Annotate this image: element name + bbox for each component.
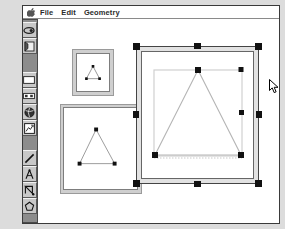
line-segment-icon[interactable] <box>23 150 37 166</box>
menu-item-edit[interactable]: Edit <box>57 6 80 19</box>
lasso-icon[interactable] <box>23 22 37 38</box>
medium-window-content[interactable] <box>63 107 138 190</box>
chart-page-icon[interactable] <box>23 120 37 136</box>
large-window-content[interactable] <box>141 51 254 179</box>
medium-triangle-shape <box>64 108 137 189</box>
small-preview-window[interactable] <box>72 49 114 96</box>
pentagon-icon[interactable] <box>23 198 37 214</box>
application-window: File Edit Geometry <box>22 5 280 224</box>
menu-bar: File Edit Geometry <box>23 6 279 19</box>
apple-icon[interactable] <box>26 7 36 17</box>
large-triangle-selection <box>142 52 253 178</box>
compass-icon[interactable] <box>23 166 37 182</box>
window-handle-right-center[interactable] <box>256 111 262 118</box>
tool-group-geometry <box>23 150 37 214</box>
tool-group-construction <box>23 72 37 152</box>
measure-icon[interactable] <box>23 182 37 198</box>
medium-document-window[interactable] <box>60 104 142 194</box>
window-handle-left-center[interactable] <box>133 111 139 118</box>
small-triangle-shape <box>77 54 109 91</box>
window-handle-bottom-left[interactable] <box>133 180 140 187</box>
globe-icon[interactable] <box>23 104 37 120</box>
arrow-cursor <box>269 79 279 94</box>
tool-group-selection <box>23 22 37 54</box>
selection-bounding-box <box>154 70 242 156</box>
small-window-content[interactable] <box>76 53 110 92</box>
desktop-background: File Edit Geometry <box>0 0 285 229</box>
window-handle-bottom-right[interactable] <box>255 180 262 187</box>
tool-palette <box>23 19 38 223</box>
document-canvas[interactable] <box>23 19 279 223</box>
page-flag-icon[interactable] <box>23 38 37 54</box>
large-document-window[interactable] <box>136 46 259 184</box>
window-handle-top-right[interactable] <box>255 43 262 50</box>
blank-panel-icon[interactable] <box>23 72 37 88</box>
menu-item-geometry[interactable]: Geometry <box>80 6 124 19</box>
menu-item-file[interactable]: File <box>36 6 57 19</box>
window-handle-bottom-center[interactable] <box>194 181 201 187</box>
window-handle-top-left[interactable] <box>133 43 140 50</box>
spectacles-icon[interactable] <box>23 88 37 104</box>
window-handle-top-center[interactable] <box>194 43 201 49</box>
